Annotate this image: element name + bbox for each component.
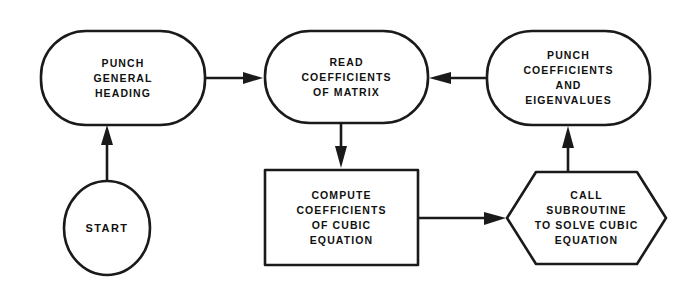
node-read-coefficients-shape[interactable]	[265, 31, 428, 123]
connector-call-to-punch-results	[562, 126, 574, 172]
arrow-head-right-icon	[243, 72, 263, 84]
node-start-shape[interactable]	[64, 181, 150, 275]
node-call-subroutine-shape[interactable]	[507, 172, 666, 264]
arrow-head-up-icon	[101, 125, 113, 145]
connector-punch-heading-to-read	[205, 72, 263, 84]
node-punch-coefficients-eigenvalues-shape[interactable]	[487, 31, 650, 125]
arrow-head-left-icon	[429, 72, 451, 84]
connector-punch-results-to-read	[429, 72, 487, 84]
connector-compute-to-call	[418, 212, 506, 225]
node-compute-cubic-shape[interactable]	[265, 170, 418, 265]
flowchart-canvas: PUNCH GENERAL HEADING READ COEFFICIENTS …	[0, 0, 685, 287]
arrow-head-up-icon	[562, 126, 574, 148]
arrow-head-right-icon	[484, 212, 506, 225]
node-punch-general-heading-shape[interactable]	[41, 31, 205, 125]
connector-start-to-punch-heading	[101, 125, 113, 181]
arrow-head-down-icon	[335, 146, 347, 168]
flowchart-svg	[0, 0, 685, 287]
connector-read-to-compute	[335, 123, 347, 168]
